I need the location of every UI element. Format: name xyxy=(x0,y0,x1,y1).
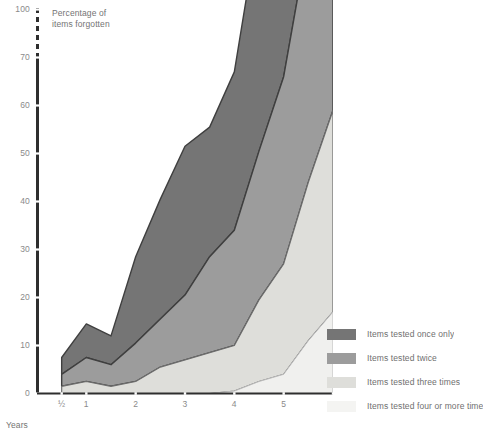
x-tick-label: ½ xyxy=(52,399,72,409)
legend-swatch xyxy=(327,329,356,340)
chart-figure: Percentage of items forgotten Years 0102… xyxy=(0,0,487,443)
legend-item[interactable]: Items tested three times xyxy=(327,370,487,394)
y-tick-label: 100 xyxy=(6,4,30,14)
y-tick-label: 10 xyxy=(6,340,30,350)
legend-label: Items tested four or more time xyxy=(367,401,483,411)
y-tick-label: 0 xyxy=(6,388,30,398)
y-tick-label: 20 xyxy=(6,292,30,302)
y-axis-title: Percentage of items forgotten xyxy=(52,8,110,30)
legend-label: Items tested once only xyxy=(367,329,454,339)
x-tick-label: 3 xyxy=(175,399,195,409)
x-tick-label: 1 xyxy=(76,399,96,409)
legend-item[interactable]: Items tested twice xyxy=(327,346,487,370)
stacked-areas xyxy=(62,0,333,394)
x-tick-label: 4 xyxy=(224,399,244,409)
legend-item[interactable]: Items tested once only xyxy=(327,322,487,346)
legend-label: Items tested three times xyxy=(367,377,460,387)
y-tick-label: 60 xyxy=(6,100,30,110)
legend-swatch xyxy=(327,377,356,388)
x-tick-label: 2 xyxy=(126,399,146,409)
y-tick-label: 50 xyxy=(6,148,30,158)
chart-legend: Items tested once onlyItems tested twice… xyxy=(327,322,487,418)
legend-item[interactable]: Items tested four or more time xyxy=(327,394,487,418)
x-axis-title: Years xyxy=(6,420,28,431)
y-tick-label: 40 xyxy=(6,196,30,206)
legend-swatch xyxy=(327,353,356,364)
legend-swatch xyxy=(327,401,356,412)
legend-label: Items tested twice xyxy=(367,353,437,363)
y-tick-label: 70 xyxy=(6,52,30,62)
y-tick-label: 30 xyxy=(6,244,30,254)
x-tick-label: 5 xyxy=(274,399,294,409)
